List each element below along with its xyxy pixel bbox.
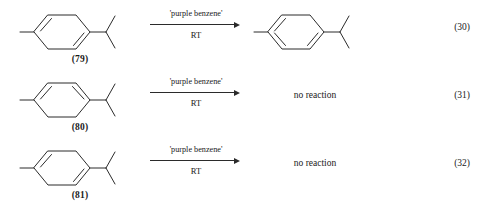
reaction-conditions-31: 'purple benzene' RT — [148, 76, 244, 109]
structure-drawing — [252, 6, 382, 58]
compound-label-79: (79) — [18, 54, 142, 64]
conditions-label: RT — [148, 97, 244, 109]
reagent-label: 'purple benzene' — [148, 144, 244, 155]
equation-number-32: (32) — [454, 158, 470, 168]
reaction-row: (79) 'purple benzene' RT — [0, 0, 482, 74]
reaction-row: (80) 'purple benzene' RT no reaction (31… — [0, 68, 482, 142]
conditions-label: RT — [148, 165, 244, 177]
reaction-row: (81) 'purple benzene' RT no reaction (32… — [0, 136, 482, 210]
arrow-shaft — [150, 160, 236, 161]
compound-label-80: (80) — [18, 122, 142, 132]
reactant-structure-79 — [18, 6, 142, 58]
reaction-conditions-32: 'purple benzene' RT — [148, 144, 244, 177]
reaction-scheme: (79) 'purple benzene' RT — [0, 0, 482, 222]
product-no-reaction: no reaction — [240, 90, 390, 100]
reactant-structure-80 — [18, 74, 142, 126]
structure-drawing — [18, 142, 142, 194]
compound-label-81: (81) — [18, 190, 142, 200]
reaction-conditions-30: 'purple benzene' RT — [148, 8, 244, 41]
conditions-label: RT — [148, 29, 244, 41]
product-structure-p-cymene — [252, 6, 382, 58]
arrow-shaft — [150, 92, 236, 93]
structure-drawing — [18, 74, 142, 126]
reagent-label: 'purple benzene' — [148, 76, 244, 87]
reaction-arrow-icon — [148, 156, 244, 165]
arrow-head — [234, 22, 240, 28]
product-no-reaction: no reaction — [240, 158, 390, 168]
equation-number-30: (30) — [454, 22, 470, 32]
arrow-shaft — [150, 24, 236, 25]
reactant-structure-81 — [18, 142, 142, 194]
structure-drawing — [18, 6, 142, 58]
reagent-label: 'purple benzene' — [148, 8, 244, 19]
reaction-arrow-icon — [148, 88, 244, 97]
equation-number-31: (31) — [454, 90, 470, 100]
reaction-arrow-icon — [148, 20, 244, 29]
